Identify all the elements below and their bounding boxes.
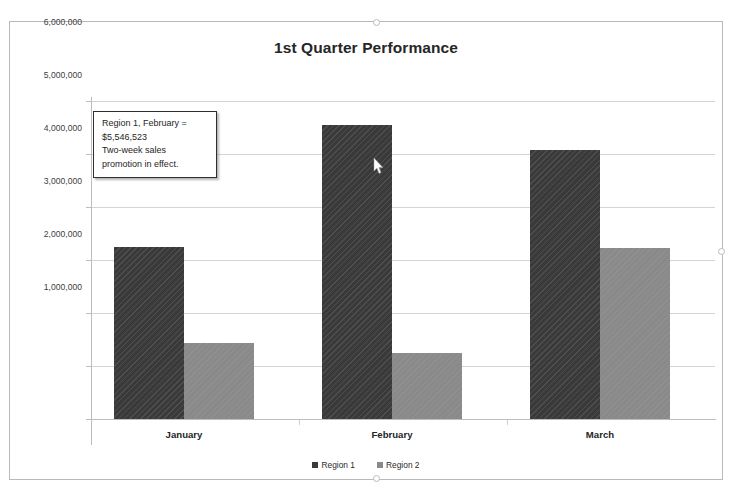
region1-february-callout[interactable]: Region 1, February =$5,546,523Two-week s…: [93, 111, 217, 178]
gridline: [91, 207, 715, 208]
series-1-swatch: [312, 462, 318, 468]
y-axis-tick-label: 3,000,000: [18, 176, 82, 186]
chart-object-frame[interactable]: 1st Quarter Performance 1,000,0002,000,0…: [9, 21, 723, 480]
callout-line-4: promotion in effect.: [102, 158, 209, 172]
resize-handle-top-center[interactable]: [373, 19, 380, 26]
y-axis-tick-label: 2,000,000: [18, 229, 82, 239]
y-axis-tick: [86, 207, 92, 208]
y-axis-tick: [86, 419, 92, 420]
legend-item-region-1[interactable]: Region 1: [312, 460, 355, 470]
chart-title: 1st Quarter Performance: [10, 39, 722, 57]
legend-item-region-2[interactable]: Region 2: [377, 460, 420, 470]
bar-march-region-2[interactable]: [600, 248, 670, 419]
callout-line-2: $5,546,523: [102, 131, 209, 145]
chart-legend[interactable]: Region 1Region 2: [10, 460, 722, 470]
callout-line-1: Region 1, February =: [102, 117, 209, 131]
x-axis-category-label-february: February: [371, 429, 412, 440]
bar-march-region-1[interactable]: [530, 150, 600, 419]
gridline: [91, 101, 715, 102]
y-axis-tick: [86, 366, 92, 367]
x-axis-category-label-march: March: [586, 429, 614, 440]
x-axis-separator: [299, 420, 300, 425]
callout-line-3: Two-week sales: [102, 144, 209, 158]
resize-handle-middle-right[interactable]: [718, 248, 725, 255]
y-axis-tick: [86, 313, 92, 314]
y-axis-tick-label: 6,000,000: [18, 17, 82, 27]
bar-january-region-2[interactable]: [184, 343, 254, 419]
x-axis-separator: [507, 420, 508, 425]
y-axis-tick-label: 4,000,000: [18, 123, 82, 133]
y-axis-tick-label: 5,000,000: [18, 70, 82, 80]
legend-label: Region 2: [386, 460, 420, 470]
y-axis-tick-label: 1,000,000: [18, 282, 82, 292]
bar-january-region-1[interactable]: [114, 247, 184, 419]
legend-label: Region 1: [321, 460, 355, 470]
mouse-pointer-icon: [373, 158, 384, 174]
bar-february-region-2[interactable]: [392, 353, 462, 419]
y-axis-tick: [86, 260, 92, 261]
y-axis-tick: [86, 154, 92, 155]
y-axis-labels: 1,000,0002,000,0003,000,0004,000,0005,00…: [10, 22, 82, 340]
x-axis-line: [91, 419, 716, 420]
series-2-swatch: [377, 462, 383, 468]
resize-handle-bottom-center[interactable]: [373, 475, 380, 482]
y-axis-tick: [86, 101, 92, 102]
x-axis-category-label-january: January: [166, 429, 203, 440]
